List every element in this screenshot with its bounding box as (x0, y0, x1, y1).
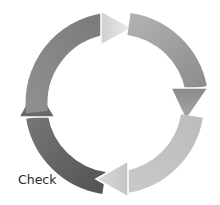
arrowhead-right-icon (101, 11, 132, 45)
segment-bottom-right (96, 116, 192, 197)
arc-top-right (129, 24, 196, 88)
segment-top-right (129, 24, 208, 120)
label-check: Check (18, 172, 56, 187)
arc-bottom-right (126, 116, 192, 182)
arrowhead-down-icon (171, 88, 208, 120)
segment-top-left (36, 11, 132, 112)
arc-top-left (36, 24, 104, 112)
